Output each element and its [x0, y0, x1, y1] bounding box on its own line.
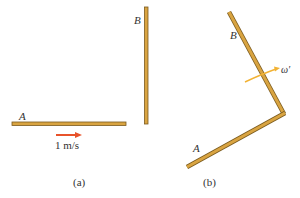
rod-a-label-figure-b: A	[193, 142, 200, 154]
rod-a-figure-a	[12, 122, 126, 126]
rod-a-label-figure-a: A	[19, 110, 26, 122]
rod-b-label-figure-a: B	[134, 14, 141, 26]
angular-velocity-label: ω′	[281, 64, 290, 75]
caption-b: (b)	[203, 176, 216, 188]
rod-b-label-figure-b: B	[230, 29, 237, 41]
diagram-canvas	[0, 0, 300, 198]
rod-b-figure-a	[145, 7, 149, 124]
caption-a: (a)	[73, 176, 85, 188]
velocity-arrow-icon	[56, 132, 82, 138]
rotation-arrow-icon	[245, 67, 280, 83]
velocity-label: 1 m/s	[55, 139, 79, 151]
